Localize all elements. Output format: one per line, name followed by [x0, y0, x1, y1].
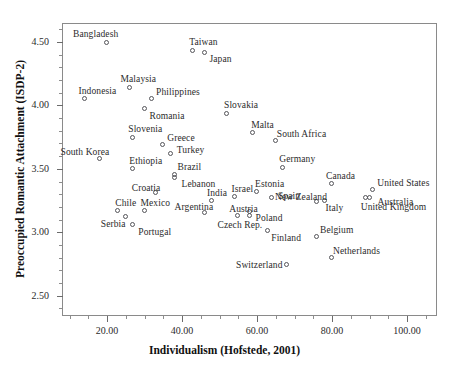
x-axis-tick-label: 100.00 — [384, 325, 430, 336]
x-axis-minor-tick — [70, 316, 71, 319]
y-axis-minor-tick — [59, 118, 62, 119]
y-axis-tick — [57, 169, 63, 170]
x-axis-tick — [107, 316, 108, 322]
x-axis-minor-tick — [126, 316, 127, 319]
y-axis-minor-tick — [59, 156, 62, 157]
y-axis-minor-tick — [59, 131, 62, 132]
plot-area-frame — [62, 23, 437, 316]
x-axis-minor-tick — [370, 316, 371, 319]
x-axis-minor-tick — [201, 316, 202, 319]
y-axis-title: Preoccupied Romantic Attachment (ISDP-2) — [14, 19, 26, 319]
x-axis-minor-tick — [88, 316, 89, 319]
x-axis-minor-tick — [388, 316, 389, 319]
x-axis-minor-tick — [295, 316, 296, 319]
x-axis-minor-tick — [238, 316, 239, 319]
y-axis-tick — [57, 105, 63, 106]
x-axis-minor-tick — [313, 316, 314, 319]
y-axis-minor-tick — [59, 207, 62, 208]
x-axis-tick-label: 60.00 — [234, 325, 280, 336]
y-axis-tick — [57, 42, 63, 43]
y-axis-tick — [57, 296, 63, 297]
y-axis-minor-tick — [59, 220, 62, 221]
scatter-plot-figure: BangladeshTaiwanJapanMalaysiaPhilippines… — [0, 0, 449, 366]
y-axis-minor-tick — [59, 55, 62, 56]
y-axis-minor-tick — [59, 67, 62, 68]
y-axis-minor-tick — [59, 308, 62, 309]
x-axis-minor-tick — [145, 316, 146, 319]
y-axis-minor-tick — [59, 283, 62, 284]
x-axis-tick — [182, 316, 183, 322]
x-axis-tick — [407, 316, 408, 322]
x-axis-minor-tick — [220, 316, 221, 319]
x-axis-minor-tick — [276, 316, 277, 319]
y-axis-minor-tick — [59, 270, 62, 271]
x-axis-tick-label: 80.00 — [309, 325, 355, 336]
x-axis-title: Individualism (Hofstede, 2001) — [0, 344, 449, 356]
x-axis-tick — [257, 316, 258, 322]
x-axis-minor-tick — [163, 316, 164, 319]
y-axis-minor-tick — [59, 80, 62, 81]
y-axis-minor-tick — [59, 143, 62, 144]
x-axis-minor-tick — [426, 316, 427, 319]
x-axis-tick — [332, 316, 333, 322]
x-axis-tick-label: 20.00 — [84, 325, 130, 336]
y-axis-minor-tick — [59, 93, 62, 94]
y-axis-minor-tick — [59, 29, 62, 30]
y-axis-minor-tick — [59, 258, 62, 259]
x-axis-tick-label: 40.00 — [159, 325, 205, 336]
y-axis-tick — [57, 232, 63, 233]
y-axis-minor-tick — [59, 182, 62, 183]
x-axis-minor-tick — [351, 316, 352, 319]
y-axis-minor-tick — [59, 194, 62, 195]
y-axis-minor-tick — [59, 245, 62, 246]
